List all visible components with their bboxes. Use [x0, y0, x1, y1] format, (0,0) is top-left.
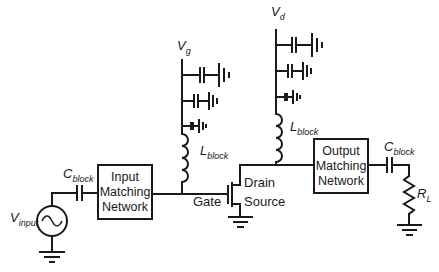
svg-text:Input: Input [111, 170, 139, 184]
circuit-schematic: Vinput Cblock Input Matching Network Vg [0, 0, 439, 272]
svg-text:Output: Output [322, 144, 360, 158]
rl-label: RL [417, 186, 431, 204]
gate-bypass-capacitor-medium-icon [182, 93, 217, 109]
drain-lblock-label: Lblock [290, 119, 319, 137]
input-cblock-label: Cblock [63, 166, 94, 184]
drain-bypass-capacitor-large-icon [276, 34, 322, 56]
svg-text:Matching: Matching [100, 185, 151, 199]
gate-label: Gate [193, 194, 221, 209]
output-cblock-label: Cblock [384, 139, 415, 157]
svg-text:Matching: Matching [316, 159, 367, 173]
drain-inductor-icon [276, 114, 282, 165]
input-matching-network: Input Matching Network [98, 165, 152, 219]
svg-text:Network: Network [102, 200, 149, 214]
transistor-icon [228, 165, 240, 217]
v-input-label: Vinput [10, 210, 39, 228]
vd-label: Vd [271, 4, 286, 22]
output-matching-network: Output Matching Network [314, 139, 368, 193]
load-resistor-icon [404, 165, 414, 225]
drain-bypass-capacitor-medium-icon [276, 63, 311, 79]
drain-bypass-capacitor-small-icon [276, 91, 300, 103]
source-ground-icon [229, 217, 252, 227]
gate-inductor-icon [182, 134, 188, 194]
ac-source-icon [37, 193, 67, 252]
vg-label: Vg [177, 38, 191, 56]
gate-lblock-label: Lblock [200, 143, 229, 161]
gate-bypass-capacitor-large-icon [182, 64, 229, 86]
drain-label: Drain [244, 175, 275, 190]
ground-icon [40, 252, 64, 262]
gate-bypass-capacitor-small-icon [182, 120, 206, 132]
load-ground-icon [398, 225, 421, 235]
source-label: Source [244, 194, 285, 209]
svg-text:Network: Network [318, 174, 365, 188]
